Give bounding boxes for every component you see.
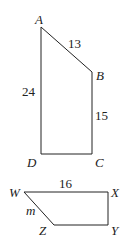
quadrilateral-wxyz	[24, 192, 108, 225]
side-bc-label: 15	[95, 108, 108, 123]
vertex-w-label: W	[9, 185, 21, 200]
diagram-canvas: A B C D 13 24 15 W X Y Z 16 m	[0, 0, 126, 250]
quadrilateral-abcd	[41, 27, 92, 154]
vertex-a-label: A	[34, 12, 43, 27]
side-wx-label: 16	[59, 176, 73, 191]
side-ab-label: 13	[68, 36, 81, 51]
vertex-b-label: B	[96, 68, 104, 83]
side-ad-label: 24	[22, 84, 36, 99]
vertex-x-label: X	[110, 185, 120, 200]
vertex-z-label: Z	[39, 223, 47, 238]
vertex-c-label: C	[95, 155, 104, 170]
vertex-y-label: Y	[111, 223, 120, 238]
vertex-d-label: D	[26, 155, 37, 170]
side-wz-label: m	[26, 203, 35, 218]
